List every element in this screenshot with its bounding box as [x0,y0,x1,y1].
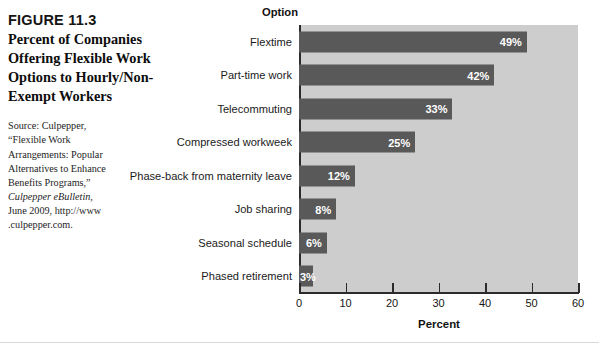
bar: 33% [299,98,452,119]
bar-row: Telecommuting33% [299,92,578,126]
bar-row: Job sharing8% [299,193,578,227]
x-tick-label: 30 [432,297,444,309]
bar: 12% [299,165,355,186]
bar-value-label: 12% [328,170,350,182]
y-axis-title: Option [262,6,298,18]
source-line-3: Arrangements: Popular [8,149,103,160]
figure-title: Percent of Companies Offering Flexible W… [8,30,158,106]
x-tick-label: 50 [525,297,537,309]
bar-row: Seasonal schedule6% [299,226,578,260]
source-publication: Culpepper eBulletin, [8,191,93,202]
bar: 8% [299,199,336,220]
bar-category-label: Part-time work [220,69,292,81]
bar-value-label: 49% [500,36,522,48]
bar-value-label: 3% [300,270,316,282]
x-tick-label: 0 [296,297,302,309]
x-tick [532,283,534,293]
x-tick [578,283,580,293]
bar-category-label: Seasonal schedule [198,237,292,249]
bar-row: Part-time work42% [299,59,578,93]
figure-caption: FIGURE 11.3 Percent of Companies Offerin… [8,12,180,232]
bar-value-label: 25% [388,136,410,148]
x-tick-label: 10 [339,297,351,309]
x-tick-label: 60 [572,297,584,309]
bar: 3% [299,266,313,287]
bar: 6% [299,232,327,253]
x-tick [346,283,348,293]
bar-value-label: 8% [315,203,331,215]
x-tick [439,283,441,293]
bar-value-label: 33% [425,103,447,115]
x-tick [485,283,487,293]
bar-value-label: 42% [467,69,489,81]
x-tick-label: 20 [386,297,398,309]
x-tick [299,283,301,293]
bar-category-label: Compressed workweek [177,136,292,148]
source-line-4: Alternatives to Enhance [8,163,106,174]
bar-chart: Option Flextime49%Part-time work42%Telec… [186,0,599,343]
bar-category-label: Job sharing [235,203,292,215]
figure-number: FIGURE 11.3 [8,12,180,29]
x-axis-title: Percent [299,318,579,330]
bar-row: Flextime49% [299,25,578,59]
source-date-url: June 2009, http://www .culpepper.com. [8,205,101,230]
source-line-1: Source: Culpepper, [8,120,86,131]
bar-row: Compressed workweek25% [299,126,578,160]
bar-row: Phase-back from maternity leave12% [299,159,578,193]
source-line-5: Benefits Programs,” [8,177,91,188]
bar-category-label: Flextime [250,36,292,48]
bar: 42% [299,65,494,86]
bar-category-label: Telecommuting [217,103,292,115]
figure-container: FIGURE 11.3 Percent of Companies Offerin… [0,0,599,343]
bar: 25% [299,132,415,153]
bar: 49% [299,31,527,52]
bar-value-label: 6% [306,237,322,249]
x-tick-label: 40 [479,297,491,309]
x-tick [392,283,394,293]
bar-category-label: Phased retirement [201,270,292,282]
bar-category-label: Phase-back from maternity leave [130,170,292,182]
source-line-2: “Flexible Work [8,134,71,145]
